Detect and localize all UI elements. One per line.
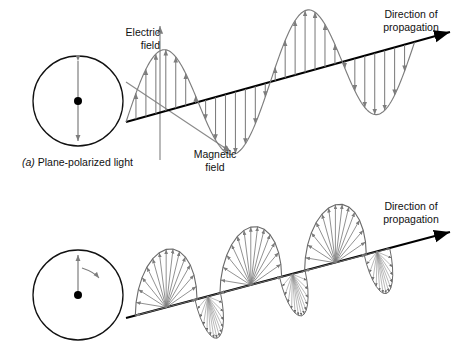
rotation-arrow	[82, 268, 99, 278]
helix-ray	[329, 208, 336, 263]
helix-vector-fans	[135, 204, 392, 338]
helix-ray	[244, 230, 251, 285]
center-dot	[74, 97, 82, 105]
helix-ray	[335, 255, 366, 263]
helix-ray-lower	[370, 252, 378, 273]
electric-field-label: Electric field	[108, 26, 160, 51]
helix-ray	[166, 299, 197, 307]
helix-ray	[251, 277, 282, 285]
helix-ray	[135, 307, 166, 315]
propagation-axis	[126, 32, 450, 122]
helix-ray-lower	[285, 274, 293, 295]
caption-text: Plane-polarized light	[35, 156, 133, 168]
helix-ray	[159, 253, 166, 308]
propagation-label-a: Direction of propagation	[366, 8, 456, 33]
propagation-label-b: Direction of propagation	[366, 200, 456, 225]
panel-a-circle-group	[33, 56, 123, 146]
helix-ray	[305, 263, 336, 271]
helix-ray	[220, 285, 251, 293]
magnetic-field-label: Magnetic field	[182, 148, 248, 173]
helix-ray-lower	[200, 296, 208, 317]
panel-b-circle-group	[33, 250, 123, 340]
caption-marker: (a)	[22, 156, 35, 168]
panel-a-caption: (a) Plane-polarized light	[22, 156, 133, 168]
polarized-light-figure	[0, 0, 462, 360]
center-dot	[74, 291, 82, 299]
